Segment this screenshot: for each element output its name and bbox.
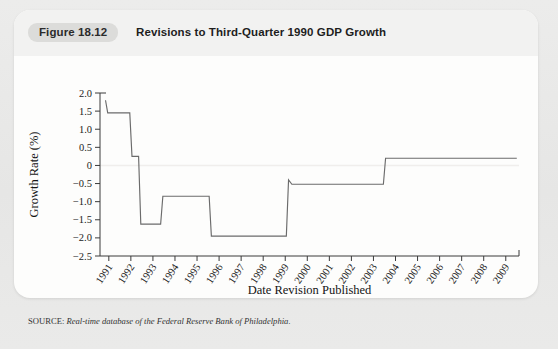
- x-tick-label: 2005: [402, 262, 423, 286]
- x-tick-label: 1994: [160, 261, 181, 285]
- y-axis-title: Growth Rate (%): [27, 131, 41, 217]
- series-line: [106, 100, 517, 236]
- x-tick-label: 2001: [314, 262, 335, 286]
- y-tick-label: 2.0: [79, 88, 92, 99]
- x-axis-ticks: [109, 256, 506, 261]
- y-axis-ticks: [95, 93, 100, 256]
- x-tick-label: 2008: [469, 262, 490, 286]
- x-tick-label: 1998: [248, 262, 269, 286]
- chart-svg: 2.01.51.00.50−0.5−1.0−1.5−2.0−2.5 199119…: [14, 56, 538, 298]
- figure-title: Revisions to Third-Quarter 1990 GDP Grow…: [136, 26, 386, 38]
- x-tick-label: 1997: [226, 262, 247, 286]
- y-tick-label: −1.5: [73, 214, 92, 225]
- x-tick-label: 2002: [336, 262, 357, 286]
- x-tick-label: 2003: [358, 262, 379, 286]
- figure-number-badge: Figure 18.12: [28, 23, 118, 42]
- y-tick-label: 0.5: [79, 142, 92, 153]
- y-tick-label: 1.5: [79, 106, 92, 117]
- x-tick-label: 2004: [380, 261, 401, 285]
- y-axis-tick-labels: 2.01.51.00.50−0.5−1.0−1.5−2.0−2.5: [73, 88, 92, 262]
- x-tick-label: 1999: [270, 262, 291, 286]
- chart-plot-area: 2.01.51.00.50−0.5−1.0−1.5−2.0−2.5 199119…: [14, 56, 538, 298]
- y-tick-label: 0: [87, 160, 92, 171]
- y-tick-label: 1.0: [79, 124, 92, 135]
- x-tick-label: 1996: [204, 262, 225, 286]
- y-tick-label: −2.0: [73, 232, 92, 243]
- page-background: Figure 18.12 Revisions to Third-Quarter …: [0, 0, 558, 349]
- x-tick-label: 2000: [292, 262, 313, 286]
- y-tick-label: −1.0: [73, 196, 92, 207]
- figure-card: Figure 18.12 Revisions to Third-Quarter …: [14, 10, 538, 298]
- y-tick-label: −0.5: [73, 178, 92, 189]
- x-tick-label: 1995: [182, 262, 203, 286]
- x-tick-label: 1993: [138, 262, 159, 286]
- source-label: SOURCE:: [28, 316, 64, 326]
- x-tick-label: 1991: [94, 262, 115, 286]
- x-tick-label: 2006: [424, 262, 445, 286]
- axis-frame: [100, 93, 519, 256]
- data-series-line: [106, 100, 517, 236]
- y-tick-label: −2.5: [73, 251, 92, 262]
- x-axis-tick-labels: 1991199219931994199519961997199819992000…: [94, 261, 512, 285]
- source-note: SOURCE: Real-time database of the Federa…: [28, 316, 291, 326]
- x-tick-label: 2009: [491, 262, 512, 286]
- source-text: Real-time database of the Federal Reserv…: [66, 316, 290, 326]
- x-tick-label: 2007: [446, 262, 467, 286]
- x-axis-title: Date Revision Published: [248, 283, 372, 297]
- x-tick-label: 1992: [116, 262, 137, 286]
